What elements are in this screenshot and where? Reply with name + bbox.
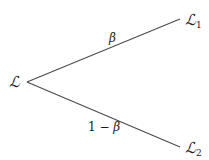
edge-root-child1	[27, 19, 180, 82]
tree-diagram: ℒ ℒ1 ℒ2 β 1 − β	[0, 0, 209, 160]
node-child2-label: ℒ2	[185, 139, 202, 158]
edge-label-beta: β	[108, 31, 116, 45]
node-child1-label: ℒ1	[185, 11, 202, 30]
edge-label-one-minus-beta: 1 − β	[88, 120, 120, 134]
node-root-label: ℒ	[9, 73, 21, 91]
edge-root-child2	[27, 82, 180, 147]
